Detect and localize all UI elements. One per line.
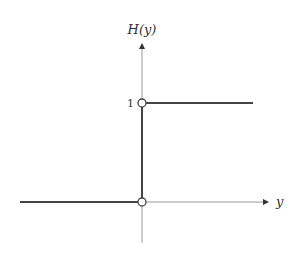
open-point-origin	[138, 198, 146, 206]
step-function-diagram: H(y) y 1	[0, 0, 295, 258]
open-point-one	[138, 99, 146, 107]
y-tick-one-label: 1	[127, 97, 134, 110]
x-axis-label: y	[275, 194, 284, 209]
y-axis-label: H(y)	[127, 22, 157, 37]
